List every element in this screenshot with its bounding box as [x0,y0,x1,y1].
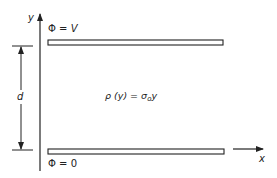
bottom-plate [48,149,224,154]
equals-sign: = [127,90,141,101]
phi-symbol: Φ [48,23,56,34]
parallel-plate-diagram: y x Φ = V Φ = 0 d ρ (y) = σoy [0,0,277,178]
rho-argument: (y) [111,90,127,101]
charge-density-formula: ρ (y) = σoy [105,91,157,103]
y-axis-label: y [28,13,34,23]
potential-value: V [71,23,78,34]
potential-value: 0 [71,158,77,169]
top-plate-potential-label: Φ = V [48,24,77,34]
equals-sign: = [56,158,71,169]
equals-sign: = [56,23,71,34]
separation-label: d [17,92,23,102]
x-axis-label: x [259,154,265,164]
y-variable: y [151,90,157,101]
bottom-plate-potential-label: Φ = 0 [48,159,77,169]
top-plate [48,40,223,45]
phi-symbol: Φ [48,158,56,169]
